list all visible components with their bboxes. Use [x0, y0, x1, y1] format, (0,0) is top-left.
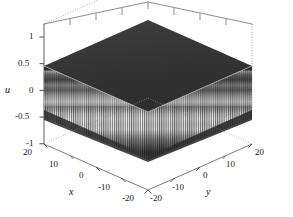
surface-mesh [44, 20, 253, 166]
x-tick-label-1: 10 [49, 160, 58, 169]
y-tick-label-4: 20 [255, 148, 264, 157]
z-tick-label-2: 0 [29, 86, 34, 95]
x-tick-label-2: 0 [79, 171, 84, 180]
surface-bottom-fringe [44, 106, 253, 164]
z-tick-label-3: -0.5 [15, 112, 29, 121]
y-tick-label-0: -20 [150, 194, 162, 203]
x-tick-label-0: 20 [23, 148, 32, 157]
x-tick-label-4: -20 [122, 194, 134, 203]
y-axis-label: y [206, 187, 210, 197]
figure-3d-surface-plot: 1 0.5 0 -0.5 -1 u 20 10 0 -10 -20 x -20 … [0, 0, 293, 217]
x-axis-label: x [69, 187, 73, 197]
y-tick-label-1: -10 [172, 183, 184, 192]
y-tick-label-2: 0 [203, 171, 208, 180]
x-tick-label-3: -10 [98, 183, 110, 192]
plot-canvas [0, 0, 293, 217]
z-axis-ticks [40, 37, 45, 144]
y-tick-label-3: 10 [226, 160, 235, 169]
z-axis-label: u [5, 85, 10, 95]
z-tick-label-1: 0.5 [18, 59, 29, 68]
z-tick-label-0: 1 [29, 32, 34, 41]
